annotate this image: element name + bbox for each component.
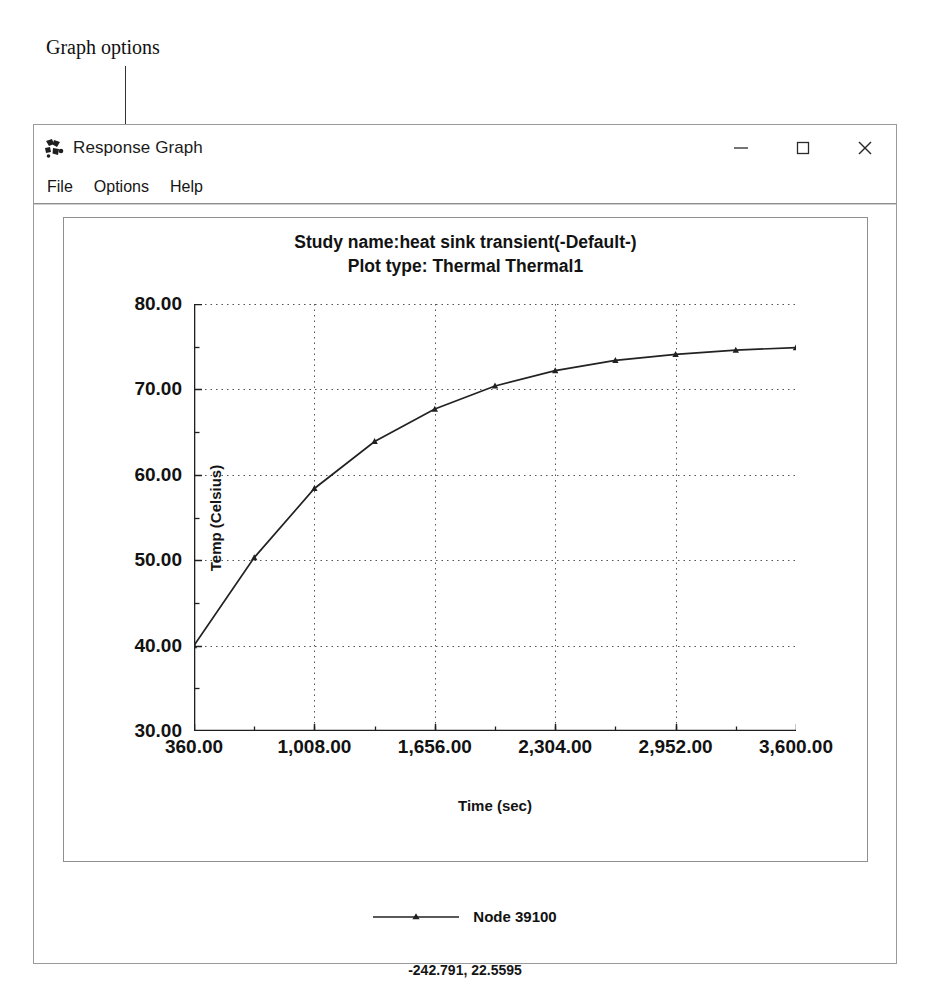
x-tick-label: 2,304.00	[518, 736, 592, 758]
x-tick-label: 2,952.00	[639, 736, 713, 758]
maximize-button[interactable]	[772, 125, 834, 171]
x-tick-label: 3,600.00	[759, 736, 833, 758]
minimize-button[interactable]	[710, 125, 772, 171]
y-tick-label: 40.00	[134, 635, 194, 657]
x-tick-label: 360.00	[165, 736, 223, 758]
plot-svg	[194, 304, 796, 731]
chart-panel: Study name:heat sink transient(-Default-…	[63, 217, 868, 862]
window-controls	[710, 125, 896, 171]
y-tick-label: 70.00	[134, 378, 194, 400]
x-tick-label: 1,656.00	[398, 736, 472, 758]
menu-item-options[interactable]: Options	[92, 177, 151, 197]
x-tick-label: 1,008.00	[277, 736, 351, 758]
legend-line-sample	[373, 911, 459, 923]
status-readout: -242.791, 22.5595	[34, 962, 896, 978]
close-button[interactable]	[834, 125, 896, 171]
y-axis-label: Temp (Celsius)	[207, 464, 224, 570]
menu-item-file[interactable]: File	[45, 177, 75, 197]
client-area: Study name:heat sink transient(-Default-…	[34, 204, 896, 963]
response-graph-window: Response Graph File Options	[33, 124, 897, 964]
chart-title: Study name:heat sink transient(-Default-…	[64, 230, 867, 278]
minimize-icon	[732, 141, 750, 155]
menu-item-help[interactable]: Help	[168, 177, 205, 197]
chart-title-line-2: Plot type: Thermal Thermal1	[64, 254, 867, 278]
menu-bar: File Options Help	[34, 171, 896, 204]
response-graph-icon	[43, 137, 65, 159]
legend-label-node-39100: Node 39100	[473, 908, 556, 925]
close-icon	[856, 139, 874, 157]
y-tick-label: 50.00	[134, 549, 194, 571]
chart-title-line-1: Study name:heat sink transient(-Default-…	[64, 230, 867, 254]
maximize-icon	[795, 140, 811, 156]
y-tick-label: 80.00	[134, 293, 194, 315]
legend: Node 39100	[34, 908, 896, 925]
axis-ticks	[194, 305, 796, 732]
title-bar: Response Graph	[34, 125, 896, 171]
plot-area[interactable]: Temp (Celsius) Time (sec) 30.0040.0050.0…	[194, 304, 796, 731]
window-title: Response Graph	[73, 138, 203, 158]
y-tick-label: 60.00	[134, 464, 194, 486]
annotation-graph-options-label: Graph options	[46, 36, 160, 59]
series-line-node-39100	[194, 348, 796, 646]
grid-lines	[194, 304, 796, 731]
x-axis-label: Time (sec)	[194, 797, 796, 814]
